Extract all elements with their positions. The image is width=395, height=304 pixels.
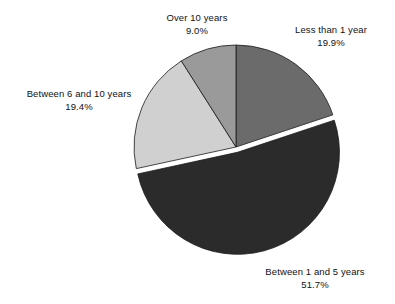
slice-label-name: Between 1 and 5 years — [244, 266, 386, 279]
slice-label-less-than-1-year: Less than 1 year 19.9% — [272, 24, 390, 49]
slice-label-over-10-years: Over 10 years 9.0% — [134, 12, 260, 37]
slice-label-value: 19.4% — [6, 101, 152, 114]
slice-label-between-6-and-10-years: Between 6 and 10 years 19.4% — [6, 88, 152, 113]
slice-label-name: Over 10 years — [134, 12, 260, 25]
slice-label-between-1-and-5-years: Between 1 and 5 years 51.7% — [244, 266, 386, 291]
pie-slice-group — [134, 45, 339, 254]
pie-chart-figure: Over 10 years 9.0% Less than 1 year 19.9… — [0, 0, 395, 304]
slice-label-name: Between 6 and 10 years — [6, 88, 152, 101]
slice-label-value: 19.9% — [272, 37, 390, 50]
slice-label-name: Less than 1 year — [272, 24, 390, 37]
slice-label-value: 9.0% — [134, 25, 260, 38]
slice-label-value: 51.7% — [244, 279, 386, 292]
